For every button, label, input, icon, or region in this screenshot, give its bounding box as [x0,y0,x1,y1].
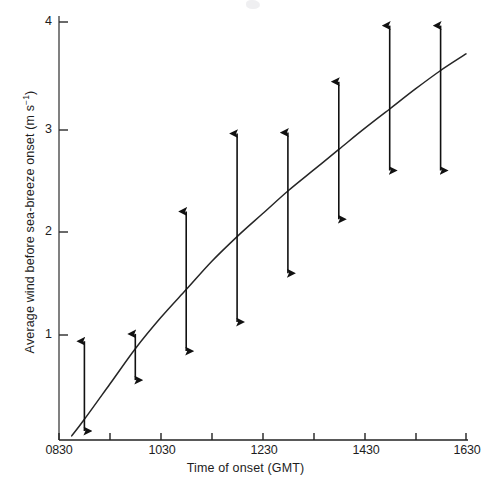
chart-figure: Average wind before sea-breeze onset (m … [0,0,491,486]
x-axis-ticks [59,433,466,440]
y-axis-ticks [59,22,68,335]
axis-lines [59,16,468,440]
range-arrow-group [84,26,440,431]
fitted-trend-curve [72,54,466,436]
plot-area [0,0,491,486]
